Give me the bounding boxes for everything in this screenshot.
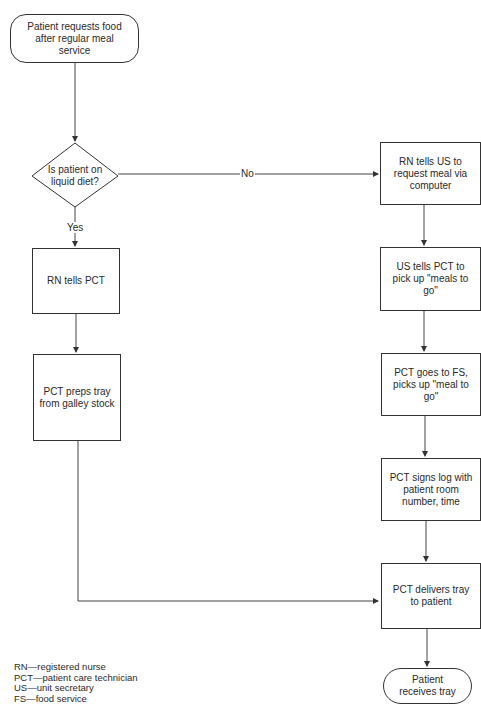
decision-text: Is patient on liquid diet? <box>40 164 110 188</box>
process-text: PCT preps tray from galley stock <box>39 386 115 410</box>
end-terminator: Patient receives tray <box>383 668 472 704</box>
process-text: PCT goes to FS, picks up "meal to go" <box>391 367 471 403</box>
no-label: No <box>240 168 255 179</box>
process-rn-tells-us: RN tells US to request meal via computer <box>380 142 481 205</box>
start-text: Patient requests food after regular meal… <box>25 21 125 57</box>
process-pct-delivers: PCT delivers tray to patient <box>381 563 481 629</box>
process-text: RN tells US to request meal via computer <box>391 156 471 192</box>
legend-item: RN—registered nurse <box>14 662 138 673</box>
process-text: PCT delivers tray to patient <box>388 584 474 608</box>
process-rn-tells-pct: RN tells PCT <box>32 248 120 314</box>
yes-label: Yes <box>66 222 84 233</box>
process-pct-goes-fs: PCT goes to FS, picks up "meal to go" <box>381 353 481 416</box>
process-us-tells-pct: US tells PCT to pick up "meals to go" <box>380 247 481 311</box>
process-pct-preps-tray: PCT preps tray from galley stock <box>33 354 121 441</box>
process-text: PCT signs log with patient room number, … <box>389 472 473 508</box>
process-pct-signs-log: PCT signs log with patient room number, … <box>381 458 481 521</box>
abbreviation-legend: RN—registered nurse PCT—patient care tec… <box>14 662 138 704</box>
start-terminator: Patient requests food after regular meal… <box>10 14 139 63</box>
process-text: US tells PCT to pick up "meals to go" <box>391 261 471 297</box>
arrow-preps-to-deliver <box>78 440 378 601</box>
legend-item: FS—food service <box>14 694 138 705</box>
process-text: RN tells PCT <box>47 275 105 287</box>
legend-item: US—unit secretary <box>14 683 138 694</box>
end-text: Patient receives tray <box>393 674 463 698</box>
